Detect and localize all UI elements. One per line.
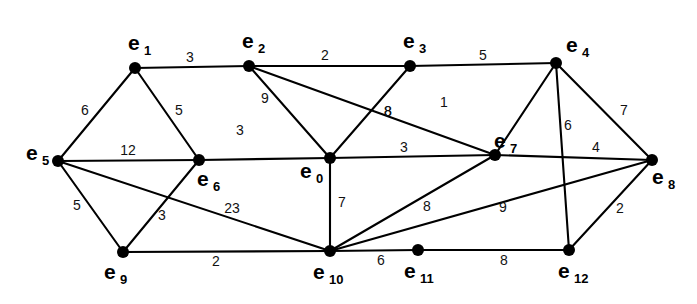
edge-weight-label: 3 bbox=[400, 139, 408, 155]
edge-weight-label: 9 bbox=[499, 199, 507, 215]
node-label-e12: e12 bbox=[558, 259, 588, 286]
graph-edge bbox=[135, 68, 199, 160]
node-label-subscript: 7 bbox=[510, 141, 517, 156]
node-label-e7: e7 bbox=[494, 129, 517, 156]
node-label-e9: e9 bbox=[104, 260, 127, 287]
node-label-subscript: 9 bbox=[120, 272, 127, 287]
graph-node-e6[interactable] bbox=[193, 154, 205, 166]
graph-edge bbox=[556, 63, 652, 160]
graph-edge bbox=[330, 66, 410, 158]
edge-weight-label: 8 bbox=[423, 198, 431, 214]
graph-node-e9[interactable] bbox=[117, 246, 129, 258]
graph-edge bbox=[410, 63, 556, 66]
node-label-subscript: 6 bbox=[213, 179, 220, 194]
graph-edge bbox=[123, 160, 199, 252]
edge-weight-label: 12 bbox=[120, 142, 136, 158]
edge-weight-label: 2 bbox=[321, 47, 329, 63]
node-label-subscript: 2 bbox=[258, 41, 265, 56]
edge-weight-label: 5 bbox=[73, 197, 81, 213]
node-label-subscript: 10 bbox=[329, 272, 343, 287]
graph-edge bbox=[123, 251, 330, 252]
edge-weight-label: 2 bbox=[212, 253, 220, 269]
edge-weight-label: 6 bbox=[377, 252, 385, 268]
graph-node-e0[interactable] bbox=[324, 152, 336, 164]
node-label-base: e bbox=[300, 159, 312, 182]
node-label-e8: e8 bbox=[652, 165, 675, 192]
node-label-base: e bbox=[242, 29, 254, 52]
node-label-subscript: 4 bbox=[582, 45, 590, 60]
node-label-e6: e6 bbox=[197, 167, 220, 194]
node-label-subscript: 0 bbox=[316, 171, 323, 186]
edge-weight-label: 5 bbox=[175, 102, 183, 118]
graph-edge bbox=[135, 66, 249, 68]
graph-edge bbox=[330, 155, 495, 158]
edges-layer bbox=[58, 63, 652, 252]
node-label-base: e bbox=[494, 129, 506, 152]
node-label-base: e bbox=[104, 260, 116, 283]
graph-edge bbox=[330, 160, 652, 251]
node-label-e5: e5 bbox=[26, 141, 49, 168]
node-label-e4: e4 bbox=[566, 33, 590, 60]
node-label-base: e bbox=[558, 259, 570, 282]
graph-edge bbox=[330, 250, 418, 251]
node-label-e10: e10 bbox=[313, 260, 343, 287]
graph-node-e4[interactable] bbox=[550, 57, 562, 69]
edge-weight-label: 4 bbox=[592, 139, 600, 155]
graph-edge bbox=[58, 160, 199, 161]
graph-edge bbox=[330, 155, 495, 251]
node-label-base: e bbox=[128, 31, 140, 54]
graph-edge bbox=[58, 161, 330, 251]
graph-node-e12[interactable] bbox=[563, 244, 575, 256]
node-label-e1: e1 bbox=[128, 31, 151, 58]
edge-weight-label: 9 bbox=[261, 90, 269, 106]
node-label-base: e bbox=[404, 259, 416, 282]
node-label-base: e bbox=[566, 33, 578, 56]
graph-canvas: 325651253233988176374826982 e0e1e2e3e4e5… bbox=[0, 0, 697, 304]
graph-node-e10[interactable] bbox=[324, 245, 336, 257]
node-label-base: e bbox=[26, 141, 38, 164]
graph-edge bbox=[569, 160, 652, 250]
edge-weight-label: 3 bbox=[158, 207, 166, 223]
edge-weight-label: 3 bbox=[186, 49, 194, 65]
edge-weight-label: 3 bbox=[236, 122, 244, 138]
graph-node-e5[interactable] bbox=[52, 155, 64, 167]
edge-weight-label: 7 bbox=[338, 194, 346, 210]
edge-weight-label: 6 bbox=[81, 102, 89, 118]
graph-edge bbox=[58, 161, 123, 252]
node-label-base: e bbox=[313, 260, 325, 283]
node-label-subscript: 1 bbox=[144, 43, 151, 58]
graph-edge bbox=[495, 155, 652, 160]
edge-weight-label: 5 bbox=[479, 47, 487, 63]
edge-weight-label: 6 bbox=[564, 117, 572, 133]
edge-weight-label: 8 bbox=[500, 252, 508, 268]
graph-node-e2[interactable] bbox=[243, 60, 255, 72]
node-label-subscript: 5 bbox=[42, 153, 49, 168]
edge-weight-label: 1 bbox=[440, 94, 448, 110]
node-label-subscript: 3 bbox=[419, 41, 426, 56]
node-label-subscript: 8 bbox=[668, 177, 675, 192]
graph-node-e3[interactable] bbox=[404, 60, 416, 72]
node-label-e2: e2 bbox=[242, 29, 265, 56]
node-label-base: e bbox=[652, 165, 664, 188]
node-label-base: e bbox=[403, 29, 415, 52]
node-label-base: e bbox=[197, 167, 209, 190]
node-label-subscript: 12 bbox=[574, 271, 588, 286]
node-label-e3: e3 bbox=[403, 29, 426, 56]
edge-weight-label: 7 bbox=[620, 102, 628, 118]
graph-node-e11[interactable] bbox=[412, 244, 424, 256]
node-label-e0: e0 bbox=[300, 159, 323, 186]
graph-node-e1[interactable] bbox=[129, 62, 141, 74]
node-label-subscript: 11 bbox=[420, 271, 434, 286]
node-label-e11: e11 bbox=[404, 259, 434, 286]
edge-weight-label: 2 bbox=[616, 200, 624, 216]
graph-figure: 325651253233988176374826982 e0e1e2e3e4e5… bbox=[0, 0, 697, 304]
edge-weight-label: 23 bbox=[224, 200, 240, 216]
edge-weight-label: 8 bbox=[384, 103, 392, 119]
